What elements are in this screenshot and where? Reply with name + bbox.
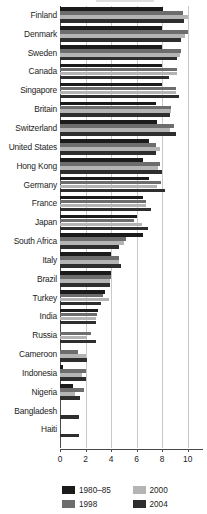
x-axis-tick-label: 0: [58, 454, 63, 464]
bar-segment: [60, 283, 110, 287]
bar-row: Finland: [0, 6, 207, 25]
bar-group-cell: [60, 251, 207, 270]
bar-group: [60, 196, 207, 212]
bar-group: [60, 346, 207, 362]
bar-row: Russia: [0, 326, 207, 345]
legend-swatch: [133, 500, 146, 508]
bar-row: Hong Kong: [0, 157, 207, 176]
bar-group-cell: [60, 289, 207, 308]
bar-segment: [60, 38, 181, 42]
bar-group: [60, 158, 207, 174]
bar-row: Japan: [0, 213, 207, 232]
bar-segment: [60, 227, 148, 231]
bar-row: Haiti: [0, 421, 207, 440]
cropped-image-artifact: [96, 0, 154, 2]
category-label: Nigeria: [0, 388, 60, 397]
bar-group: [60, 271, 207, 287]
bar-group-cell: [60, 138, 207, 157]
category-label: Haiti: [0, 425, 60, 434]
category-label: Canada: [0, 67, 60, 76]
bar-segment: [60, 170, 162, 174]
legend-label: 2004: [150, 500, 168, 509]
category-label: Turkey: [0, 294, 60, 303]
bar-segment: [60, 76, 169, 80]
bar-row: Denmark: [0, 25, 207, 44]
legend-swatch: [62, 486, 75, 494]
bar-segment: [60, 321, 96, 325]
category-label: South Africa: [0, 237, 60, 246]
bar-row: Italy: [0, 251, 207, 270]
bar-group: [60, 7, 207, 23]
x-axis-tick: [86, 449, 87, 452]
bar-group-cell: [60, 345, 207, 364]
bar-row: Canada: [0, 63, 207, 82]
bar-segment: [60, 19, 184, 23]
bar-row: Indonesia: [0, 364, 207, 383]
bar-group-cell: [60, 119, 207, 138]
legend-label: 1998: [79, 500, 97, 509]
legend-item: 2000: [133, 484, 198, 496]
bar-group-cell: [60, 232, 207, 251]
bar-row: Bangladesh: [0, 402, 207, 421]
bar-row: Singapore: [0, 81, 207, 100]
bar-segment: [60, 57, 177, 61]
bar-segment: [60, 396, 80, 400]
bar-segment: [60, 95, 179, 99]
bar-group-cell: [60, 100, 207, 119]
bar-segment: [60, 132, 176, 136]
x-axis-tick: [111, 449, 112, 452]
bar-group: [60, 120, 207, 136]
bar-group-cell: [60, 25, 207, 44]
category-label: Indonesia: [0, 369, 60, 378]
bar-segment: [60, 434, 79, 438]
bar-segment: [60, 302, 101, 306]
bar-row: Cameroon: [0, 345, 207, 364]
bar-group: [60, 403, 207, 419]
category-label: Sweden: [0, 49, 60, 58]
bar-row: Switzerland: [0, 119, 207, 138]
bar-group: [60, 64, 207, 80]
legend-item: 1998: [62, 498, 127, 510]
bar-group-cell: [60, 213, 207, 232]
bar-row: France: [0, 194, 207, 213]
bar-group: [60, 102, 207, 118]
bar-group-cell: [60, 176, 207, 195]
bar-group-cell: [60, 421, 207, 440]
bar-row: India: [0, 308, 207, 327]
bar-row: Britain: [0, 100, 207, 119]
x-axis-tick: [137, 449, 138, 452]
x-axis-tick-label: 4: [109, 454, 114, 464]
bar-group-cell: [60, 44, 207, 63]
bar-group-cell: [60, 402, 207, 421]
x-axis-tick: [60, 449, 61, 452]
bar-segment: [60, 113, 170, 117]
chart-legend: 1980–85200019982004: [62, 484, 197, 510]
x-axis-tick-label: 10: [183, 454, 192, 464]
category-label: Brazil: [0, 275, 60, 284]
bar-group-cell: [60, 63, 207, 82]
category-label: Singapore: [0, 86, 60, 95]
category-label: Japan: [0, 218, 60, 227]
bar-segment: [60, 415, 79, 419]
legend-item: 1980–85: [62, 484, 127, 496]
bar-group: [60, 83, 207, 99]
bar-row: Turkey: [0, 289, 207, 308]
bar-group-cell: [60, 364, 207, 383]
bar-group: [60, 309, 207, 325]
bar-group-cell: [60, 194, 207, 213]
bar-group: [60, 290, 207, 306]
bar-segment: [60, 358, 87, 362]
category-label: Britain: [0, 105, 60, 114]
bar-segment: [60, 151, 156, 155]
bar-row: Brazil: [0, 270, 207, 289]
bar-group: [60, 26, 207, 42]
category-label: United States: [0, 143, 60, 152]
x-axis-tick-label: 6: [134, 454, 139, 464]
legend-label: 2000: [150, 486, 168, 495]
bar-group-cell: [60, 6, 207, 25]
category-label: Italy: [0, 256, 60, 265]
bar-group: [60, 45, 207, 61]
bar-group-cell: [60, 326, 207, 345]
x-axis-line: [60, 449, 203, 450]
bar-group-cell: [60, 308, 207, 327]
